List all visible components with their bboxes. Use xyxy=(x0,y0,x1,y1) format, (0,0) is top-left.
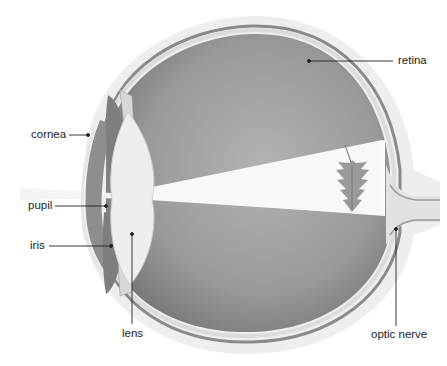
label-pupil: pupil xyxy=(28,200,52,212)
eye-diagram: retina cornea pupil iris lens optic nerv… xyxy=(0,0,447,366)
label-retina: retina xyxy=(398,55,427,67)
label-iris: iris xyxy=(30,240,45,252)
label-cornea: cornea xyxy=(31,129,66,141)
label-optic-nerve: optic nerve xyxy=(371,329,427,341)
label-lens: lens xyxy=(122,328,143,340)
